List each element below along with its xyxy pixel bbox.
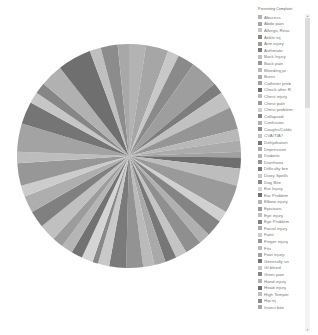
legend-item[interactable]: Diabetic	[256, 152, 305, 159]
legend-label: Burns	[264, 74, 275, 79]
legend-item[interactable]: Back pain	[256, 60, 305, 67]
legend-item[interactable]: Asthmatic	[256, 47, 305, 54]
legend-item[interactable]: Ankle inj	[256, 34, 305, 41]
legend-item[interactable]: CVA/TIA?	[256, 133, 305, 140]
legend-swatch	[258, 193, 262, 197]
legend-swatch	[258, 134, 262, 138]
legend-scrollbar[interactable]: ▲ ▼	[305, 14, 310, 332]
legend-label: Dizzy Spells	[264, 173, 288, 178]
legend-item[interactable]: Insect bite	[256, 304, 305, 311]
legend-swatch	[258, 180, 262, 184]
legend-swatch	[258, 187, 262, 191]
legend-label: Abscess	[264, 15, 281, 20]
legend-swatch	[258, 167, 262, 171]
legend-item[interactable]: Fits	[256, 245, 305, 252]
legend-swatch	[258, 28, 262, 32]
legend-item[interactable]: GI bleed	[256, 265, 305, 272]
legend-item[interactable]: Catheter prob	[256, 80, 305, 87]
legend-swatch	[258, 246, 262, 250]
legend-item[interactable]: Dog Bite	[256, 179, 305, 186]
legend-swatch	[258, 200, 262, 204]
legend-item[interactable]: Faint	[256, 232, 305, 239]
legend-item[interactable]: Abscess	[256, 14, 305, 21]
legend-swatch	[258, 154, 262, 158]
legend-swatch	[258, 174, 262, 178]
legend-label: Hand injury	[264, 279, 286, 284]
legend-item[interactable]: Ear Problem	[256, 192, 305, 199]
legend-item[interactable]: Foot injury	[256, 251, 305, 258]
legend-label: Back Injury	[264, 54, 286, 59]
legend-item[interactable]: Bleeding pr	[256, 67, 305, 74]
legend-label: Fits	[264, 246, 271, 251]
legend-item[interactable]: Dehydration	[256, 139, 305, 146]
legend-item[interactable]: Chest injury	[256, 93, 305, 100]
legend-item[interactable]: Ear Injury	[256, 185, 305, 192]
legend-item[interactable]: Facial injury	[256, 225, 305, 232]
legend-swatch	[258, 299, 262, 303]
legend-title: Presenting Complaint	[256, 6, 312, 12]
legend-item[interactable]: Abdo pain	[256, 21, 305, 28]
legend-swatch	[258, 68, 262, 72]
legend-swatch	[258, 160, 262, 164]
legend-label: Collapsed	[264, 114, 284, 119]
legend-item[interactable]: Depression	[256, 146, 305, 153]
legend-item[interactable]: Diarrhoea	[256, 159, 305, 166]
legend-swatch	[258, 220, 262, 224]
legend-swatch	[258, 94, 262, 98]
legend-label: Coughs/Colds	[264, 127, 292, 132]
legend-label: Head injury	[264, 285, 286, 290]
legend-item[interactable]: Confusion	[256, 120, 305, 127]
pie-chart	[14, 41, 244, 271]
legend-swatch	[258, 35, 262, 39]
legend-item[interactable]: Groin pain	[256, 271, 305, 278]
legend-label: Generally un	[264, 259, 289, 264]
scroll-thumb[interactable]	[305, 18, 310, 108]
legend-item[interactable]: Check after R	[256, 87, 305, 94]
legend-item[interactable]: Hand injury	[256, 278, 305, 285]
legend-item[interactable]: Hip inj	[256, 298, 305, 305]
legend-label: Eye Problem	[264, 219, 289, 224]
legend-item[interactable]: Burns	[256, 73, 305, 80]
legend-item[interactable]: Generally un	[256, 258, 305, 265]
legend-swatch	[258, 239, 262, 243]
legend-item[interactable]: Eye Problem	[256, 218, 305, 225]
legend-label: Facial injury	[264, 226, 287, 231]
legend-item[interactable]: Finger injury	[256, 238, 305, 245]
legend-label: Allergic Reac	[264, 28, 290, 33]
legend-item[interactable]: Back Injury	[256, 54, 305, 61]
legend-label: Insect bite	[264, 305, 284, 310]
legend-label: Elbow injury	[264, 199, 288, 204]
legend-item[interactable]: Chest problem	[256, 106, 305, 113]
legend-item[interactable]: High Temper	[256, 291, 305, 298]
legend-swatch	[258, 75, 262, 79]
legend-swatch	[258, 55, 262, 59]
legend-swatch	[258, 22, 262, 26]
legend-item[interactable]: Chest pain	[256, 100, 305, 107]
legend-item[interactable]: Coughs/Colds	[256, 126, 305, 133]
legend-swatch	[258, 272, 262, 276]
legend-label: Confusion	[264, 120, 284, 125]
legend-swatch	[258, 108, 262, 112]
legend-item[interactable]: Elbow injury	[256, 199, 305, 206]
legend-item[interactable]: Dizzy Spells	[256, 172, 305, 179]
legend-item[interactable]: Eye injury	[256, 212, 305, 219]
legend-swatch	[258, 101, 262, 105]
legend-panel: Presenting Complaint AbscessAbdo painAll…	[256, 6, 312, 332]
legend-item[interactable]: Difficulty bre	[256, 166, 305, 173]
legend-label: Depression	[264, 147, 286, 152]
legend-swatch	[258, 42, 262, 46]
legend-label: High Temper	[264, 292, 289, 297]
legend-label: Difficulty bre	[264, 166, 288, 171]
legend-swatch	[258, 226, 262, 230]
legend-item[interactable]: Epistaxis	[256, 205, 305, 212]
legend-swatch	[258, 259, 262, 263]
scroll-down-icon[interactable]: ▼	[305, 328, 310, 332]
legend-item[interactable]: Allergic Reac	[256, 27, 305, 34]
legend-item[interactable]: Head injury	[256, 284, 305, 291]
legend-item[interactable]: Arm injury	[256, 40, 305, 47]
legend-label: Bleeding pr	[264, 68, 286, 73]
legend-label: Ear Injury	[264, 186, 283, 191]
legend-label: Chest problem	[264, 107, 293, 112]
legend-swatch	[258, 61, 262, 65]
legend-item[interactable]: Collapsed	[256, 113, 305, 120]
